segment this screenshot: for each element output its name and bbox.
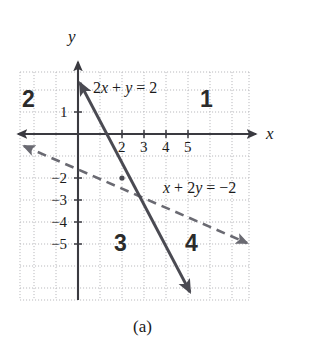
y-tick-label-1: 1 <box>60 105 68 120</box>
graph-figure: y x 1 −2 −3 −4 −5 2 3 4 5 2x + y = 2 x +… <box>0 0 311 352</box>
coordinate-plane <box>0 0 311 352</box>
x-axis-label: x <box>266 125 274 142</box>
quadrant-label-3: 3 <box>114 232 127 255</box>
x-tick-label-3: 3 <box>140 140 148 155</box>
quadrant-label-2: 2 <box>22 88 35 111</box>
quadrant-label-4: 4 <box>185 232 198 255</box>
x-tick-label-5: 5 <box>184 140 192 155</box>
figure-caption: (a) <box>133 318 152 335</box>
x-tick-label-2: 2 <box>118 140 126 155</box>
quadrant-label-1: 1 <box>200 88 213 111</box>
x-tick-label-4: 4 <box>162 140 170 155</box>
equation-label-dashed: x + 2y = −2 <box>163 180 236 196</box>
y-tick-label-neg4: −4 <box>51 215 67 230</box>
y-axis-label: y <box>68 28 76 45</box>
equation-label-solid: 2x + y = 2 <box>93 80 157 96</box>
y-tick-label-neg2: −2 <box>51 171 67 186</box>
y-tick-label-neg5: −5 <box>51 237 67 252</box>
intersection-point <box>119 175 124 180</box>
y-tick-label-neg3: −3 <box>51 193 67 208</box>
